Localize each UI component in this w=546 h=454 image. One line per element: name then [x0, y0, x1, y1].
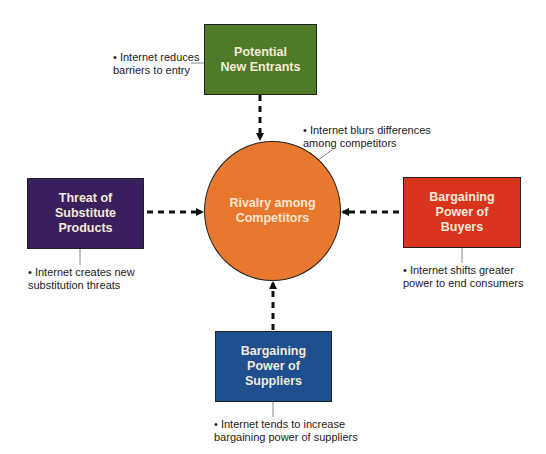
threat-of-substitutes-label: Threat of Substitute Products — [55, 191, 116, 236]
potential-new-entrants-label: Potential New Entrants — [221, 45, 301, 75]
leader-center — [318, 150, 332, 160]
bargaining-power-buyers-label: Bargaining Power of Buyers — [429, 190, 494, 235]
potential-new-entrants-box: Potential New Entrants — [204, 24, 317, 95]
substitutes-note: • Internet creates new substitution thre… — [28, 266, 135, 292]
bargaining-power-suppliers-box: Bargaining Power of Suppliers — [215, 331, 332, 402]
rivalry-label: Rivalry among Competitors — [229, 196, 315, 226]
buyers-note: • Internet shifts greater power to end c… — [403, 264, 523, 290]
bargaining-power-suppliers-label: Bargaining Power of Suppliers — [241, 344, 306, 389]
suppliers-note: • Internet tends to increase bargaining … — [214, 418, 358, 444]
rivalry-note: • Internet blurs differences among compe… — [303, 124, 431, 150]
new-entrants-note: • Internet reduces barriers to entry — [113, 51, 199, 77]
rivalry-circle: Rivalry among Competitors — [204, 141, 341, 281]
bargaining-power-buyers-box: Bargaining Power of Buyers — [403, 177, 521, 248]
threat-of-substitutes-box: Threat of Substitute Products — [27, 178, 144, 249]
